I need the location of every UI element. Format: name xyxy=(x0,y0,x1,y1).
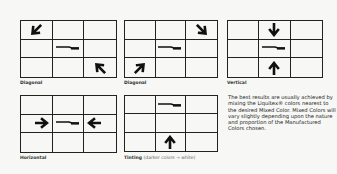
grid-cell xyxy=(186,133,217,151)
grid-cell xyxy=(186,58,217,77)
grid-cell xyxy=(21,115,53,134)
grid-cell xyxy=(228,40,259,59)
arrow-right-icon xyxy=(35,116,49,130)
grid-cell xyxy=(84,115,116,134)
grid-cell xyxy=(291,21,322,40)
arrow-up-right-icon xyxy=(133,61,147,75)
grid-cell xyxy=(21,96,53,115)
mixed-color-stroke-icon xyxy=(158,45,182,51)
grid-cell xyxy=(84,96,116,115)
grid-cell xyxy=(21,40,53,59)
grid-cell xyxy=(125,58,156,77)
grid-cell xyxy=(21,58,53,77)
grid-cell xyxy=(53,133,85,152)
grid-cell xyxy=(84,133,116,152)
grid-cell xyxy=(125,133,156,151)
grid-cell xyxy=(186,96,217,114)
grid-cell xyxy=(259,21,290,40)
grid-cell xyxy=(156,21,187,40)
grid-cell xyxy=(156,114,187,132)
diagram-label: Horizontal xyxy=(20,155,46,160)
mixing-grid xyxy=(124,20,218,78)
grid-cell xyxy=(186,114,217,132)
diagram-label-title: Tinting xyxy=(124,155,142,160)
grid-cell xyxy=(84,58,116,77)
diagram-label: Diagonal xyxy=(124,80,146,85)
grid-cell xyxy=(21,133,53,152)
grid-cell xyxy=(125,21,156,40)
grid-cell xyxy=(125,96,156,114)
grid-cell xyxy=(84,21,116,40)
arrow-down-icon xyxy=(267,23,281,37)
grid-cell xyxy=(259,58,290,77)
grid-cell xyxy=(53,21,85,40)
arrow-down-right-icon xyxy=(29,23,43,37)
grid-cell xyxy=(186,40,217,59)
diagram-label: Vertical xyxy=(227,80,246,85)
grid-cell xyxy=(21,21,53,40)
arrow-down-left-icon xyxy=(195,23,209,37)
grid-cell xyxy=(228,58,259,77)
explanatory-note: The best results are usually achieved by… xyxy=(228,94,336,132)
diagram-label: Tinting (darker colors → white) xyxy=(124,155,195,160)
grid-cell xyxy=(84,40,116,59)
grid-cell xyxy=(125,40,156,59)
grid-cell xyxy=(186,21,217,40)
grid-cell xyxy=(53,96,85,115)
mixed-color-stroke-icon xyxy=(56,120,80,126)
arrow-left-icon xyxy=(87,116,101,130)
grid-cell xyxy=(53,40,85,59)
grid-cell xyxy=(291,58,322,77)
grid-cell xyxy=(53,115,85,134)
grid-cell xyxy=(53,58,85,77)
diagram-label: Diagonal xyxy=(20,80,42,85)
grid-cell xyxy=(259,40,290,59)
grid-cell xyxy=(156,40,187,59)
grid-cell xyxy=(156,96,187,114)
grid-cell xyxy=(156,58,187,77)
mixed-color-stroke-icon xyxy=(158,102,182,108)
mixed-color-stroke-icon xyxy=(262,45,286,51)
mixing-grid xyxy=(227,20,323,78)
grid-cell xyxy=(228,21,259,40)
arrow-up-icon xyxy=(163,135,177,149)
mixing-grid xyxy=(124,95,218,152)
mixing-grid xyxy=(20,95,117,153)
arrow-up-left-icon xyxy=(93,61,107,75)
grid-cell xyxy=(156,133,187,151)
diagram-label-subtitle: (darker colors → white) xyxy=(144,155,196,160)
mixing-grid xyxy=(20,20,117,78)
mixed-color-stroke-icon xyxy=(56,45,80,51)
grid-cell xyxy=(125,114,156,132)
arrow-up-icon xyxy=(267,61,281,75)
grid-cell xyxy=(291,40,322,59)
